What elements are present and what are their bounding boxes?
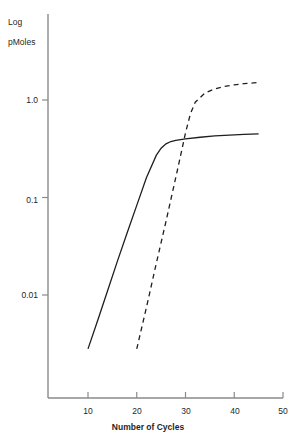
x-tick-marks <box>88 392 283 398</box>
plot-area <box>0 0 296 441</box>
y-tick-marks <box>42 100 48 295</box>
series-line-solid <box>88 134 259 349</box>
series-line-dashed <box>137 83 259 349</box>
chart-container: Log pMoles 1.0 0.1 0.01 10 20 30 40 50 N… <box>0 0 296 441</box>
